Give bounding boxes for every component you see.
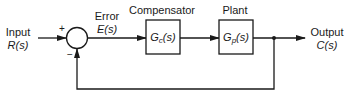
- plus-sign: +: [59, 23, 65, 34]
- error-signal: E(s): [97, 23, 118, 35]
- input-signal: R(s): [8, 39, 29, 51]
- error-label: Error: [95, 10, 120, 22]
- block-diagram: Input R(s) + − Error E(s) Compensator Gc…: [0, 0, 349, 95]
- plant-tf: Gp(s): [223, 31, 249, 45]
- output-label: Output: [310, 26, 343, 38]
- plant-title: Plant: [222, 4, 247, 16]
- output-signal: C(s): [317, 39, 338, 51]
- input-label: Input: [6, 26, 30, 38]
- summing-junction: [67, 28, 88, 49]
- compensator-title: Compensator: [129, 4, 195, 16]
- compensator-tf: Gc(s): [150, 31, 176, 45]
- minus-sign: −: [67, 49, 73, 60]
